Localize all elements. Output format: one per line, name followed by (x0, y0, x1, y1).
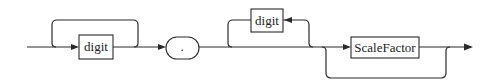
scalefactor-node: ScaleFactor (351, 37, 419, 58)
arrow-into-digit2-icon (284, 17, 292, 23)
syntax-diagram: digit . digit ScaleFactor (0, 0, 492, 82)
arrow-into-digit-icon (71, 44, 79, 50)
dot-terminal: . (166, 37, 199, 59)
digit2-loop-right (283, 20, 313, 47)
arrow-into-scalefactor-icon (343, 44, 351, 50)
dot-label: . (180, 39, 183, 54)
arrow-into-dot-icon (158, 44, 166, 50)
digit-node-1: digit (79, 35, 113, 59)
digit2-loop-left (228, 20, 251, 47)
scalefactor-label: ScaleFactor (354, 40, 416, 55)
digit-label-1: digit (84, 39, 108, 54)
digit-label-2: digit (255, 13, 279, 28)
digit-node-2: digit (251, 9, 283, 32)
exit-arrow-icon (464, 44, 473, 51)
